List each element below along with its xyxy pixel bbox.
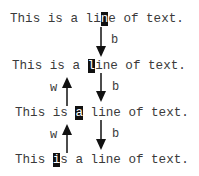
arrow-down-icon bbox=[96, 73, 106, 102]
motion-label-b: b bbox=[112, 128, 119, 140]
motion-label-b: b bbox=[112, 81, 119, 93]
motion-label-w: w bbox=[50, 82, 57, 94]
arrow-down-icon bbox=[96, 120, 106, 150]
arrow-up-icon bbox=[62, 77, 72, 106]
arrows-layer bbox=[0, 0, 199, 176]
arrow-up-icon bbox=[62, 124, 72, 153]
motion-label-w: w bbox=[50, 129, 57, 141]
motion-label-b: b bbox=[111, 34, 118, 46]
arrow-down-icon bbox=[96, 27, 106, 57]
